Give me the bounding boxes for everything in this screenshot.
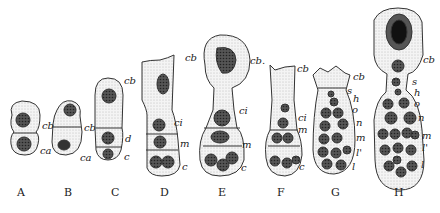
caption-G: G [331,187,340,198]
label-H-o: o [414,99,420,109]
stage-A [11,101,40,155]
figure-drawing [0,0,440,213]
label-H-cb: cb [423,55,435,65]
stage-F [266,65,303,176]
label-C-cb: cb [124,76,136,86]
label-H-l: l [421,160,424,170]
label-F-c: c [299,162,305,172]
label-A-ca: ca [40,146,52,156]
label-H-n: n [418,113,424,123]
stage-B [52,101,82,155]
stage-G [313,66,355,174]
caption-B: B [64,187,72,198]
label-G-n: n [356,118,362,128]
label-H-h: h [414,88,420,98]
label-H-l-prime: l' [422,143,428,153]
label-G-m: m [356,133,365,143]
label-G-cb: cb [353,72,365,82]
caption-A: A [17,187,25,198]
label-D-c: c [182,162,188,172]
label-F-cb: cb [297,64,309,74]
label-B-ca: ca [80,153,92,163]
caption-F: F [277,187,285,198]
caption-E: E [218,187,226,198]
label-A-cb: cb [42,121,54,131]
label-E-c: c [241,163,247,173]
caption-D: D [160,187,169,198]
label-F-m: m [298,125,307,135]
embryo-development-figure: cb ca cb ca cb d c cb ci m c cb. ci m c … [0,0,440,213]
label-B-cb: cb [84,123,96,133]
caption-C: C [111,187,119,198]
label-E-m: m [242,140,251,150]
caption-H: H [394,187,404,198]
label-H-m: m [422,131,431,141]
label-G-o: o [352,105,358,115]
label-G-l: l [352,162,355,172]
label-F-ci: ci [298,113,307,123]
label-C-d: d [125,134,131,144]
stage-D [142,55,180,176]
label-G-s: s [347,86,352,96]
label-C-c: c [124,152,130,162]
label-E-ci: ci [239,106,248,116]
label-G-l-prime: l' [356,148,362,158]
label-D-cb: cb [185,53,197,63]
label-G-h: h [353,94,359,104]
label-D-m: m [180,139,189,149]
label-H-s: s [412,77,417,87]
label-D-ci: ci [174,118,183,128]
stage-C [95,78,123,160]
label-E-cb: cb. [250,56,265,66]
